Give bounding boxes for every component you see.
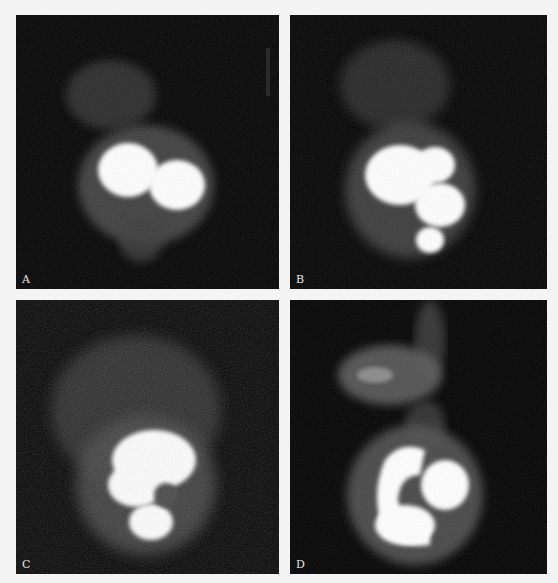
panel-label-d: D — [296, 559, 305, 570]
scan-image-a — [16, 15, 279, 289]
scan-image-c — [16, 300, 279, 574]
panel-label-a: A — [22, 274, 30, 285]
scan-panel-c: C — [16, 300, 279, 574]
panel-label-c: C — [22, 559, 30, 570]
scan-panel-a: A — [16, 15, 279, 289]
scan-image-b — [290, 15, 547, 289]
scan-image-d — [290, 300, 547, 574]
scan-panel-b: B — [290, 15, 547, 289]
panel-label-b: B — [296, 274, 304, 285]
scan-panel-d: D — [290, 300, 547, 574]
